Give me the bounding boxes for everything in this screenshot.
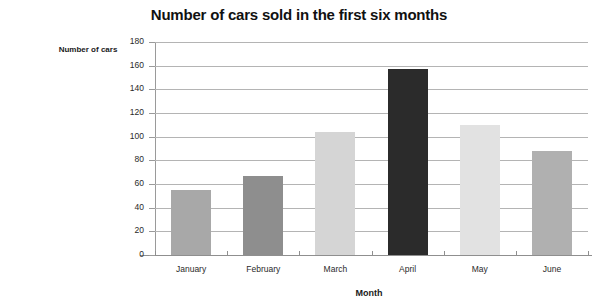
y-tick-label: 120 — [112, 108, 144, 117]
x-tick-mark — [444, 251, 445, 256]
plot-area — [155, 42, 588, 255]
y-tick-mark — [149, 137, 155, 138]
chart-title: Number of cars sold in the first six mon… — [0, 6, 598, 23]
x-tick-label: June — [512, 264, 592, 274]
gridline — [155, 66, 588, 67]
y-tick-mark — [149, 42, 155, 43]
bar-march — [315, 132, 355, 255]
bar-chart-figure: Number of cars sold in the first six mon… — [0, 0, 598, 308]
bar-june — [532, 151, 572, 255]
x-tick-mark — [516, 251, 517, 256]
y-tick-label: 160 — [112, 61, 144, 70]
gridline — [155, 231, 588, 232]
bar-january — [171, 190, 211, 255]
gridline — [155, 184, 588, 185]
y-tick-mark — [149, 160, 155, 161]
x-tick-label: February — [223, 264, 303, 274]
y-tick-label: 0 — [112, 250, 144, 259]
gridline — [155, 89, 588, 90]
y-tick-label: 140 — [112, 84, 144, 93]
bar-may — [460, 125, 500, 255]
y-tick-label: 80 — [112, 155, 144, 164]
x-tick-mark — [227, 251, 228, 256]
y-tick-mark — [149, 184, 155, 185]
y-tick-mark — [149, 113, 155, 114]
y-tick-label: 40 — [112, 203, 144, 212]
y-axis-title: Number of cars — [38, 45, 138, 54]
x-tick-label: January — [151, 264, 231, 274]
x-axis-title: Month — [140, 288, 598, 298]
gridline — [155, 208, 588, 209]
x-tick-label: April — [368, 264, 448, 274]
y-tick-label: 60 — [112, 179, 144, 188]
y-tick-mark — [149, 66, 155, 67]
y-tick-label: 100 — [112, 132, 144, 141]
bar-april — [388, 69, 428, 255]
y-tick-mark — [149, 89, 155, 90]
y-tick-mark — [149, 208, 155, 209]
gridline — [155, 113, 588, 114]
x-tick-mark — [588, 251, 589, 256]
y-tick-mark — [149, 231, 155, 232]
gridline — [155, 42, 588, 43]
x-tick-label: March — [295, 264, 375, 274]
x-tick-mark — [372, 251, 373, 256]
x-tick-label: May — [440, 264, 520, 274]
x-tick-mark — [299, 251, 300, 256]
bar-february — [243, 176, 283, 255]
gridline — [155, 137, 588, 138]
gridline — [155, 160, 588, 161]
y-tick-label: 180 — [112, 37, 144, 46]
y-tick-label: 20 — [112, 226, 144, 235]
x-tick-mark — [155, 251, 156, 256]
x-axis-line — [140, 255, 592, 256]
